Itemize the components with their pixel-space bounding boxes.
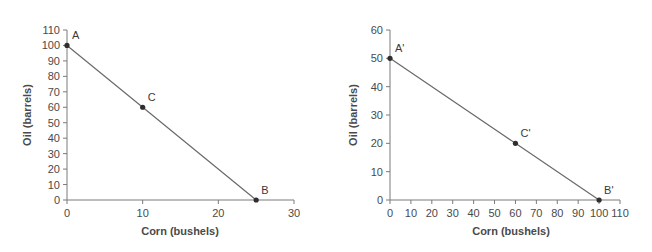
right-x-axis-title: Corn (bushels)	[472, 225, 550, 237]
x-tick-label: 70	[530, 207, 542, 219]
y-tick-label: 20	[371, 137, 383, 149]
x-tick-label: 100	[590, 207, 608, 219]
x-tick-label: 40	[468, 207, 480, 219]
chart-right: 0102030405060 0102030405060708090100110 …	[0, 0, 652, 252]
x-tick-label: 0	[387, 207, 393, 219]
x-tick-label: 80	[551, 207, 563, 219]
y-tick-label: 50	[371, 52, 383, 64]
y-tick-label: 0	[377, 194, 383, 206]
right-ppf-line	[390, 58, 599, 200]
x-tick-label: 20	[426, 207, 438, 219]
x-tick-label: 30	[447, 207, 459, 219]
right-points: A'C'B'	[387, 42, 613, 202]
data-point-b-prime	[596, 197, 601, 202]
x-tick-label: 110	[611, 207, 629, 219]
y-tick-label: 30	[371, 109, 383, 121]
y-tick-label: 10	[371, 166, 383, 178]
right-y-ticks: 0102030405060	[371, 24, 390, 206]
y-tick-label: 40	[371, 81, 383, 93]
x-tick-label: 50	[488, 207, 500, 219]
data-point-c-prime	[513, 141, 518, 146]
point-label: C'	[520, 127, 530, 139]
x-tick-label: 10	[405, 207, 417, 219]
data-point-a-prime	[387, 56, 392, 61]
x-tick-label: 60	[509, 207, 521, 219]
right-x-ticks: 0102030405060708090100110	[387, 200, 629, 219]
x-tick-label: 90	[572, 207, 584, 219]
right-y-axis-title: Oil (barrels)	[347, 84, 359, 146]
y-tick-label: 60	[371, 24, 383, 36]
point-label: A'	[395, 42, 404, 54]
point-label: B'	[604, 184, 613, 196]
